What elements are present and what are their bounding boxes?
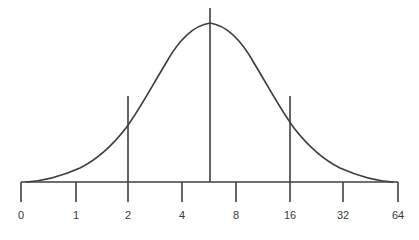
x-tick-label-0: 0: [6, 209, 36, 222]
x-tick-label-16: 16: [275, 209, 305, 222]
x-tick-label-2: 2: [113, 209, 143, 222]
bell-curve-plot: [0, 0, 419, 240]
x-tick-label-4: 4: [167, 209, 197, 222]
bell-curve-figure: 0 1 2 4 8 16 32 64: [0, 0, 419, 240]
vertical-markers: [128, 8, 290, 182]
x-tick-label-32: 32: [328, 209, 358, 222]
x-axis-ticks: [21, 182, 398, 202]
x-tick-label-8: 8: [221, 209, 251, 222]
x-tick-label-64: 64: [383, 209, 413, 222]
x-tick-label-1: 1: [61, 209, 91, 222]
